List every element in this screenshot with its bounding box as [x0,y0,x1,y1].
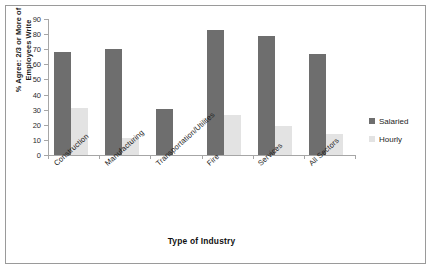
y-tick-label: 20 [33,120,41,129]
bar-hourly-3 [224,115,241,155]
legend-label: Hourly [379,135,402,144]
chart-legend: SalariedHourly [369,116,408,152]
y-tick-label: 90 [33,15,41,24]
legend-label: Salaried [379,117,408,126]
x-tick-mark [202,155,203,159]
bar-salaried-4 [258,36,275,155]
legend-swatch-icon [369,118,375,124]
y-tick-label: 30 [33,105,41,114]
x-tick-mark [253,155,254,159]
y-tick-label: 70 [33,45,41,54]
y-tick-label: 0 [37,151,41,160]
x-tick-mark [150,155,151,159]
legend-item-hourly[interactable]: Hourly [369,134,408,144]
bar-salaried-1 [105,49,122,155]
y-tick-label: 60 [33,60,41,69]
bar-salaried-5 [309,54,326,155]
y-axis-ticks: 0102030405060708090 [0,0,48,156]
bar-salaried-3 [207,30,224,155]
y-tick-label: 80 [33,30,41,39]
x-tick-mark [355,155,356,159]
x-tick-mark [304,155,305,159]
chart-figure: % Agree: 2/3 or More of Employees Write … [0,0,433,274]
legend-swatch-icon [369,136,375,142]
y-tick-label: 50 [33,75,41,84]
x-tick-mark [99,155,100,159]
x-tick-mark [48,155,49,159]
y-tick-label: 40 [33,90,41,99]
legend-item-salaried[interactable]: Salaried [369,116,408,126]
bar-salaried-0 [54,52,71,155]
plot-area [48,19,355,155]
x-axis-title: Type of Industry [48,236,355,246]
y-tick-label: 10 [33,135,41,144]
